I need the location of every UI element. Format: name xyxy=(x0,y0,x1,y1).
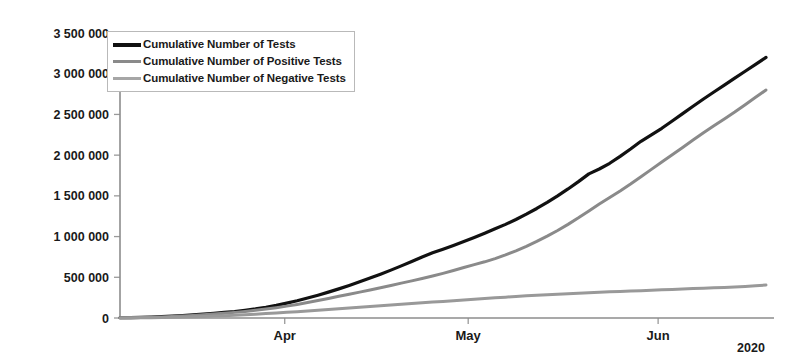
series-line-tests xyxy=(120,57,766,317)
y-tick-label: 2 500 000 xyxy=(53,108,109,122)
y-axis-tick-labels: 3 500 0003 000 0002 500 0002 000 0001 50… xyxy=(53,27,109,326)
y-tick-label: 1 000 000 xyxy=(53,230,109,244)
line-chart: 3 500 0003 000 0002 500 0002 000 0001 50… xyxy=(0,0,804,364)
x-tick-label: May xyxy=(456,328,482,343)
legend-item-negative-tests: Cumulative Number of Negative Tests xyxy=(113,70,349,87)
x-tick-label: Jun xyxy=(647,328,670,343)
x-axis-ticks xyxy=(285,318,658,324)
y-tick-label: 3 500 000 xyxy=(53,27,109,41)
legend-label-positive-tests: Cumulative Number of Positive Tests xyxy=(143,53,342,70)
legend-item-tests: Cumulative Number of Tests xyxy=(113,36,349,53)
y-tick-label: 1 500 000 xyxy=(53,189,109,203)
x-tick-label: Apr xyxy=(274,328,296,343)
year-label: 2020 xyxy=(737,341,765,355)
legend-item-positive-tests: Cumulative Number of Positive Tests xyxy=(113,53,349,70)
legend-label-negative-tests: Cumulative Number of Negative Tests xyxy=(143,70,346,87)
legend-swatch-negative-tests xyxy=(113,77,141,80)
data-series-group xyxy=(120,57,766,317)
legend-swatch-tests xyxy=(113,43,141,47)
legend-swatch-positive-tests xyxy=(113,60,141,63)
y-tick-label: 500 000 xyxy=(64,271,109,285)
y-tick-label: 3 000 000 xyxy=(53,67,109,81)
y-tick-label: 0 xyxy=(102,312,109,326)
chart-legend: Cumulative Number of Tests Cumulative Nu… xyxy=(107,31,355,92)
x-axis-tick-labels: AprMayJun xyxy=(274,328,670,343)
y-tick-label: 2 000 000 xyxy=(53,149,109,163)
legend-label-tests: Cumulative Number of Tests xyxy=(143,36,295,53)
